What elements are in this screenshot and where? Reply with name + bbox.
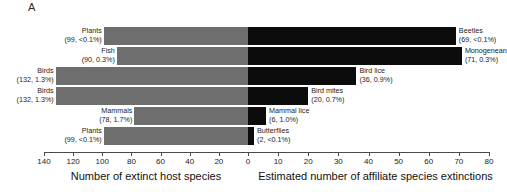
host-label-stat: (99, <0.1%)	[64, 36, 101, 45]
host-label: Plants(99, <0.1%)	[64, 27, 101, 44]
host-label-stat: (132, 1.3%)	[17, 76, 54, 85]
host-bar	[134, 107, 248, 125]
chart-row: Birds(132, 1.3%)Bird lice(36, 0.9%)	[0, 67, 503, 85]
chart-row: Birds(132, 1.3%)Bird mites(20, 0.7%)	[0, 87, 503, 105]
affiliate-label-stat: (20, 0.7%)	[311, 96, 344, 105]
affiliate-bar	[248, 27, 456, 45]
affiliate-bar	[248, 67, 356, 85]
host-label: Plants(99, <0.1%)	[64, 127, 101, 144]
host-label: Fish(90, 0.3%)	[82, 47, 115, 64]
host-bar	[104, 127, 248, 145]
host-label-stat: (90, 0.3%)	[82, 56, 115, 65]
affiliate-label: Bird lice(36, 0.9%)	[359, 67, 392, 84]
host-label-stat: (132, 1.3%)	[17, 96, 54, 105]
host-bar	[56, 87, 248, 105]
affiliate-label: Monogenean(71, 0.3%)	[465, 47, 507, 64]
host-label-stat: (78, 1.7%)	[99, 116, 132, 125]
affiliate-label: Mammal lice(6, 1.0%)	[269, 107, 309, 124]
affiliate-label: Butterflies(2, <0.1%)	[257, 127, 290, 144]
host-bar	[104, 27, 248, 45]
host-label-stat: (99, <0.1%)	[64, 136, 101, 145]
affiliate-label-stat: (2, <0.1%)	[257, 136, 290, 145]
affiliate-label-stat: (36, 0.9%)	[359, 76, 392, 85]
host-label: Birds(132, 1.3%)	[17, 87, 54, 104]
affiliate-label-stat: (69, <0.1%)	[459, 36, 496, 45]
affiliate-label-stat: (6, 1.0%)	[269, 116, 309, 125]
affiliate-bar	[248, 127, 254, 145]
affiliate-bar	[248, 107, 266, 125]
chart-row: Fish(90, 0.3%)Monogenean(71, 0.3%)	[0, 47, 503, 65]
affiliate-bar	[248, 87, 308, 105]
host-label: Birds(132, 1.3%)	[17, 67, 54, 84]
affiliate-label-stat: (71, 0.3%)	[465, 56, 507, 65]
affiliate-label: Beetles(69, <0.1%)	[459, 27, 496, 44]
chart-row: Plants(99, <0.1%)Beetles(69, <0.1%)	[0, 27, 503, 45]
host-bar	[56, 67, 248, 85]
host-bar	[117, 47, 248, 65]
affiliate-label: Bird mites(20, 0.7%)	[311, 87, 344, 104]
chart-row: Mammals(78, 1.7%)Mammal lice(6, 1.0%)	[0, 107, 503, 125]
chart-row: Plants(99, <0.1%)Butterflies(2, <0.1%)	[0, 127, 503, 145]
affiliate-bar	[248, 47, 462, 65]
host-label: Mammals(78, 1.7%)	[99, 107, 132, 124]
